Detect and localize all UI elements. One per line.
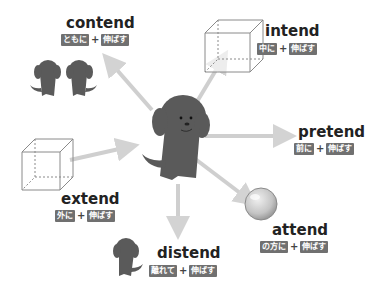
meaning-pretend: 前に + 伸ばす bbox=[294, 143, 354, 155]
word-pretend: pretend bbox=[298, 124, 365, 140]
plus-sign: + bbox=[77, 211, 85, 221]
meaning-attend: の方に + 伸ばす bbox=[260, 241, 328, 253]
ball-icon bbox=[245, 188, 277, 220]
prefix-meaning-badge: 前に bbox=[294, 143, 314, 155]
prefix-meaning-badge: ともに bbox=[61, 34, 89, 46]
prefix-meaning-badge: 中に bbox=[257, 43, 277, 55]
cube-icon bbox=[205, 20, 263, 72]
word-intend: intend bbox=[265, 23, 320, 39]
prefix-meaning-badge: 離れて bbox=[149, 265, 177, 277]
word-distend: distend bbox=[157, 245, 221, 261]
two-dogs-icon bbox=[30, 60, 97, 96]
meaning-contend: ともに + 伸ばす bbox=[61, 34, 129, 46]
word-attend: attend bbox=[272, 222, 328, 238]
prefix-meaning-badge: 外に bbox=[55, 210, 75, 222]
root-meaning-badge: 伸ばす bbox=[289, 43, 317, 55]
plus-sign: + bbox=[290, 242, 298, 252]
tend-word-diagram: contend ともに + 伸ばす intend 中に + 伸ばす preten… bbox=[0, 0, 377, 294]
meaning-distend: 離れて + 伸ばす bbox=[149, 265, 217, 277]
plus-sign: + bbox=[91, 35, 99, 45]
root-meaning-badge: 伸ばす bbox=[326, 143, 354, 155]
plus-sign: + bbox=[179, 266, 187, 276]
word-contend: contend bbox=[66, 15, 135, 31]
cube-icon bbox=[22, 139, 73, 190]
plus-sign: + bbox=[316, 144, 324, 154]
meaning-extend: 外に + 伸ばす bbox=[55, 210, 115, 222]
small-dog-icon bbox=[113, 238, 143, 276]
arrow-from-extend bbox=[70, 147, 128, 160]
arrow-to-contend bbox=[110, 62, 152, 110]
root-meaning-badge: 伸ばす bbox=[87, 210, 115, 222]
plus-sign: + bbox=[279, 44, 287, 54]
word-extend: extend bbox=[61, 191, 120, 207]
prefix-meaning-badge: の方に bbox=[260, 241, 288, 253]
root-meaning-badge: 伸ばす bbox=[300, 241, 328, 253]
root-meaning-badge: 伸ばす bbox=[189, 265, 217, 277]
root-meaning-badge: 伸ばす bbox=[101, 34, 129, 46]
meaning-intend: 中に + 伸ばす bbox=[257, 43, 317, 55]
arrow-to-attend bbox=[190, 155, 248, 199]
